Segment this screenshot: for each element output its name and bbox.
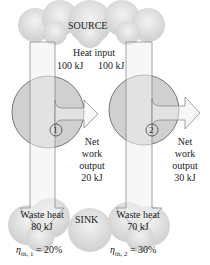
engine-1-waste-value: 80 kJ <box>12 221 72 233</box>
source-label: SOURCE <box>68 20 107 32</box>
engine-2-efficiency-value: = 30% <box>130 244 156 255</box>
heat-input-label: Heat input <box>73 47 115 59</box>
engine-2-work-output: Net work output 30 kJ <box>165 136 205 184</box>
engine-1-efficiency-value: = 20% <box>36 244 62 255</box>
engine-2-heat-input: 100 kJ <box>98 60 124 72</box>
engine-1-work-value: 20 kJ <box>72 172 112 184</box>
engine-1-efficiency: ηth, 1 = 20% <box>16 244 62 260</box>
engine-1-work-label-3: output <box>72 160 112 172</box>
engine-1-work-label-1: Net <box>72 136 112 148</box>
engine-1-heat-input: 100 kJ <box>57 60 83 72</box>
engine-2-work-label-2: work <box>165 148 205 160</box>
engine-1-waste-heat: Waste heat 80 kJ <box>12 209 72 233</box>
engine-1-work-label-2: work <box>72 148 112 160</box>
engine-1-number: 1 <box>53 124 58 136</box>
engine-2-waste-value: 70 kJ <box>108 221 168 233</box>
engine-2-waste-heat: Waste heat 70 kJ <box>108 209 168 233</box>
engine-2-work-label-1: Net <box>165 136 205 148</box>
engine-1-eta-subscript: th, 1 <box>21 250 33 258</box>
engine-2-eta-subscript: th, 2 <box>115 250 127 258</box>
sink-label: SINK <box>75 214 98 226</box>
engine-1-work-output: Net work output 20 kJ <box>72 136 112 184</box>
engine-2-work-value: 30 kJ <box>165 172 205 184</box>
engine-1-waste-label: Waste heat <box>12 209 72 221</box>
engine-2-work-label-3: output <box>165 160 205 172</box>
engine-2-efficiency: ηth, 2 = 30% <box>110 244 156 260</box>
engine-2-number: 2 <box>149 124 154 136</box>
engine-2-waste-label: Waste heat <box>108 209 168 221</box>
